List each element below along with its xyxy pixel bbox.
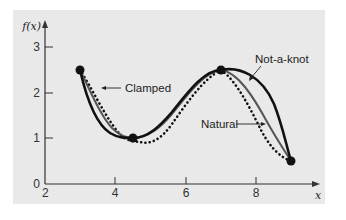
x-tick-label: 4 <box>112 186 119 200</box>
y-axis-arrow-icon <box>42 20 48 28</box>
y-tick-label: 1 <box>33 131 40 145</box>
natural-arrow-icon <box>261 122 266 126</box>
y-tick-label: 3 <box>33 40 40 54</box>
x-axis-label: x <box>315 189 322 202</box>
clamped-arrow-icon <box>101 86 106 90</box>
clamped-label: Clamped <box>125 82 171 94</box>
y-axis-label: f(x) <box>21 20 41 33</box>
data-point <box>76 66 85 75</box>
x-axis-arrow-icon <box>312 181 320 187</box>
spline-chart: 2 4 6 8 0 1 2 3 f(x) x Clamped Not-a-kno… <box>0 0 346 220</box>
data-point <box>217 66 226 75</box>
data-point <box>129 134 138 143</box>
y-tick-label: 2 <box>33 86 40 100</box>
x-tick-label: 8 <box>253 186 260 200</box>
not-a-knot-pointer <box>251 66 261 78</box>
natural-label: Natural <box>201 118 238 130</box>
not-a-knot-curve <box>80 69 291 161</box>
data-point <box>287 157 296 166</box>
not-a-knot-label: Not-a-knot <box>255 53 309 65</box>
y-tick-label: 0 <box>33 177 40 191</box>
x-tick-label: 2 <box>42 186 49 200</box>
x-tick-label: 6 <box>183 186 190 200</box>
